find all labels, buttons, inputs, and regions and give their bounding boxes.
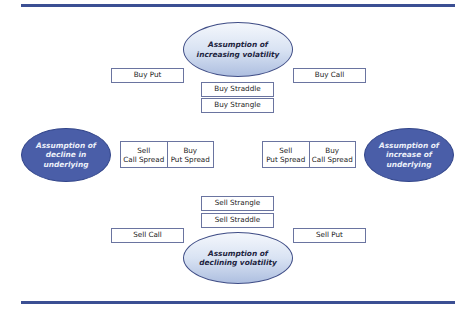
left-spread-pair: Sell Call Spread Buy Put Spread <box>120 141 214 168</box>
box-sell-put-spread: Sell Put Spread <box>263 142 309 167</box>
ellipse-declining-volatility: Assumption of declining volatility <box>183 232 293 284</box>
ellipse-decline-underlying: Assumption of decline in underlying <box>21 128 111 182</box>
box-buy-call-spread: Buy Call Spread <box>309 142 356 167</box>
ellipse-increase-underlying: Assumption of increase of underlying <box>364 128 454 182</box>
box-buy-put-spread: Buy Put Spread <box>167 142 214 167</box>
top-rule <box>21 4 455 7</box>
ellipse-label: Assumption of increasing volatility <box>197 40 280 59</box>
box-buy-put: Buy Put <box>111 68 184 83</box>
ellipse-label: Assumption of increase of underlying <box>379 141 439 169</box>
box-sell-straddle: Sell Straddle <box>201 213 274 228</box>
box-buy-straddle: Buy Straddle <box>201 82 274 97</box>
bottom-rule <box>21 301 455 304</box>
box-sell-strangle: Sell Strangle <box>201 196 274 211</box>
box-sell-call: Sell Call <box>111 228 184 243</box>
ellipse-increasing-volatility: Assumption of increasing volatility <box>183 22 293 77</box>
ellipse-label: Assumption of declining volatility <box>199 249 277 268</box>
box-sell-call-spread: Sell Call Spread <box>121 142 167 167</box>
box-buy-call: Buy Call <box>293 68 366 83</box>
box-buy-strangle: Buy Strangle <box>201 98 274 113</box>
box-sell-put: Sell Put <box>293 228 366 243</box>
right-spread-pair: Sell Put Spread Buy Call Spread <box>262 141 356 168</box>
ellipse-label: Assumption of decline in underlying <box>36 141 96 169</box>
